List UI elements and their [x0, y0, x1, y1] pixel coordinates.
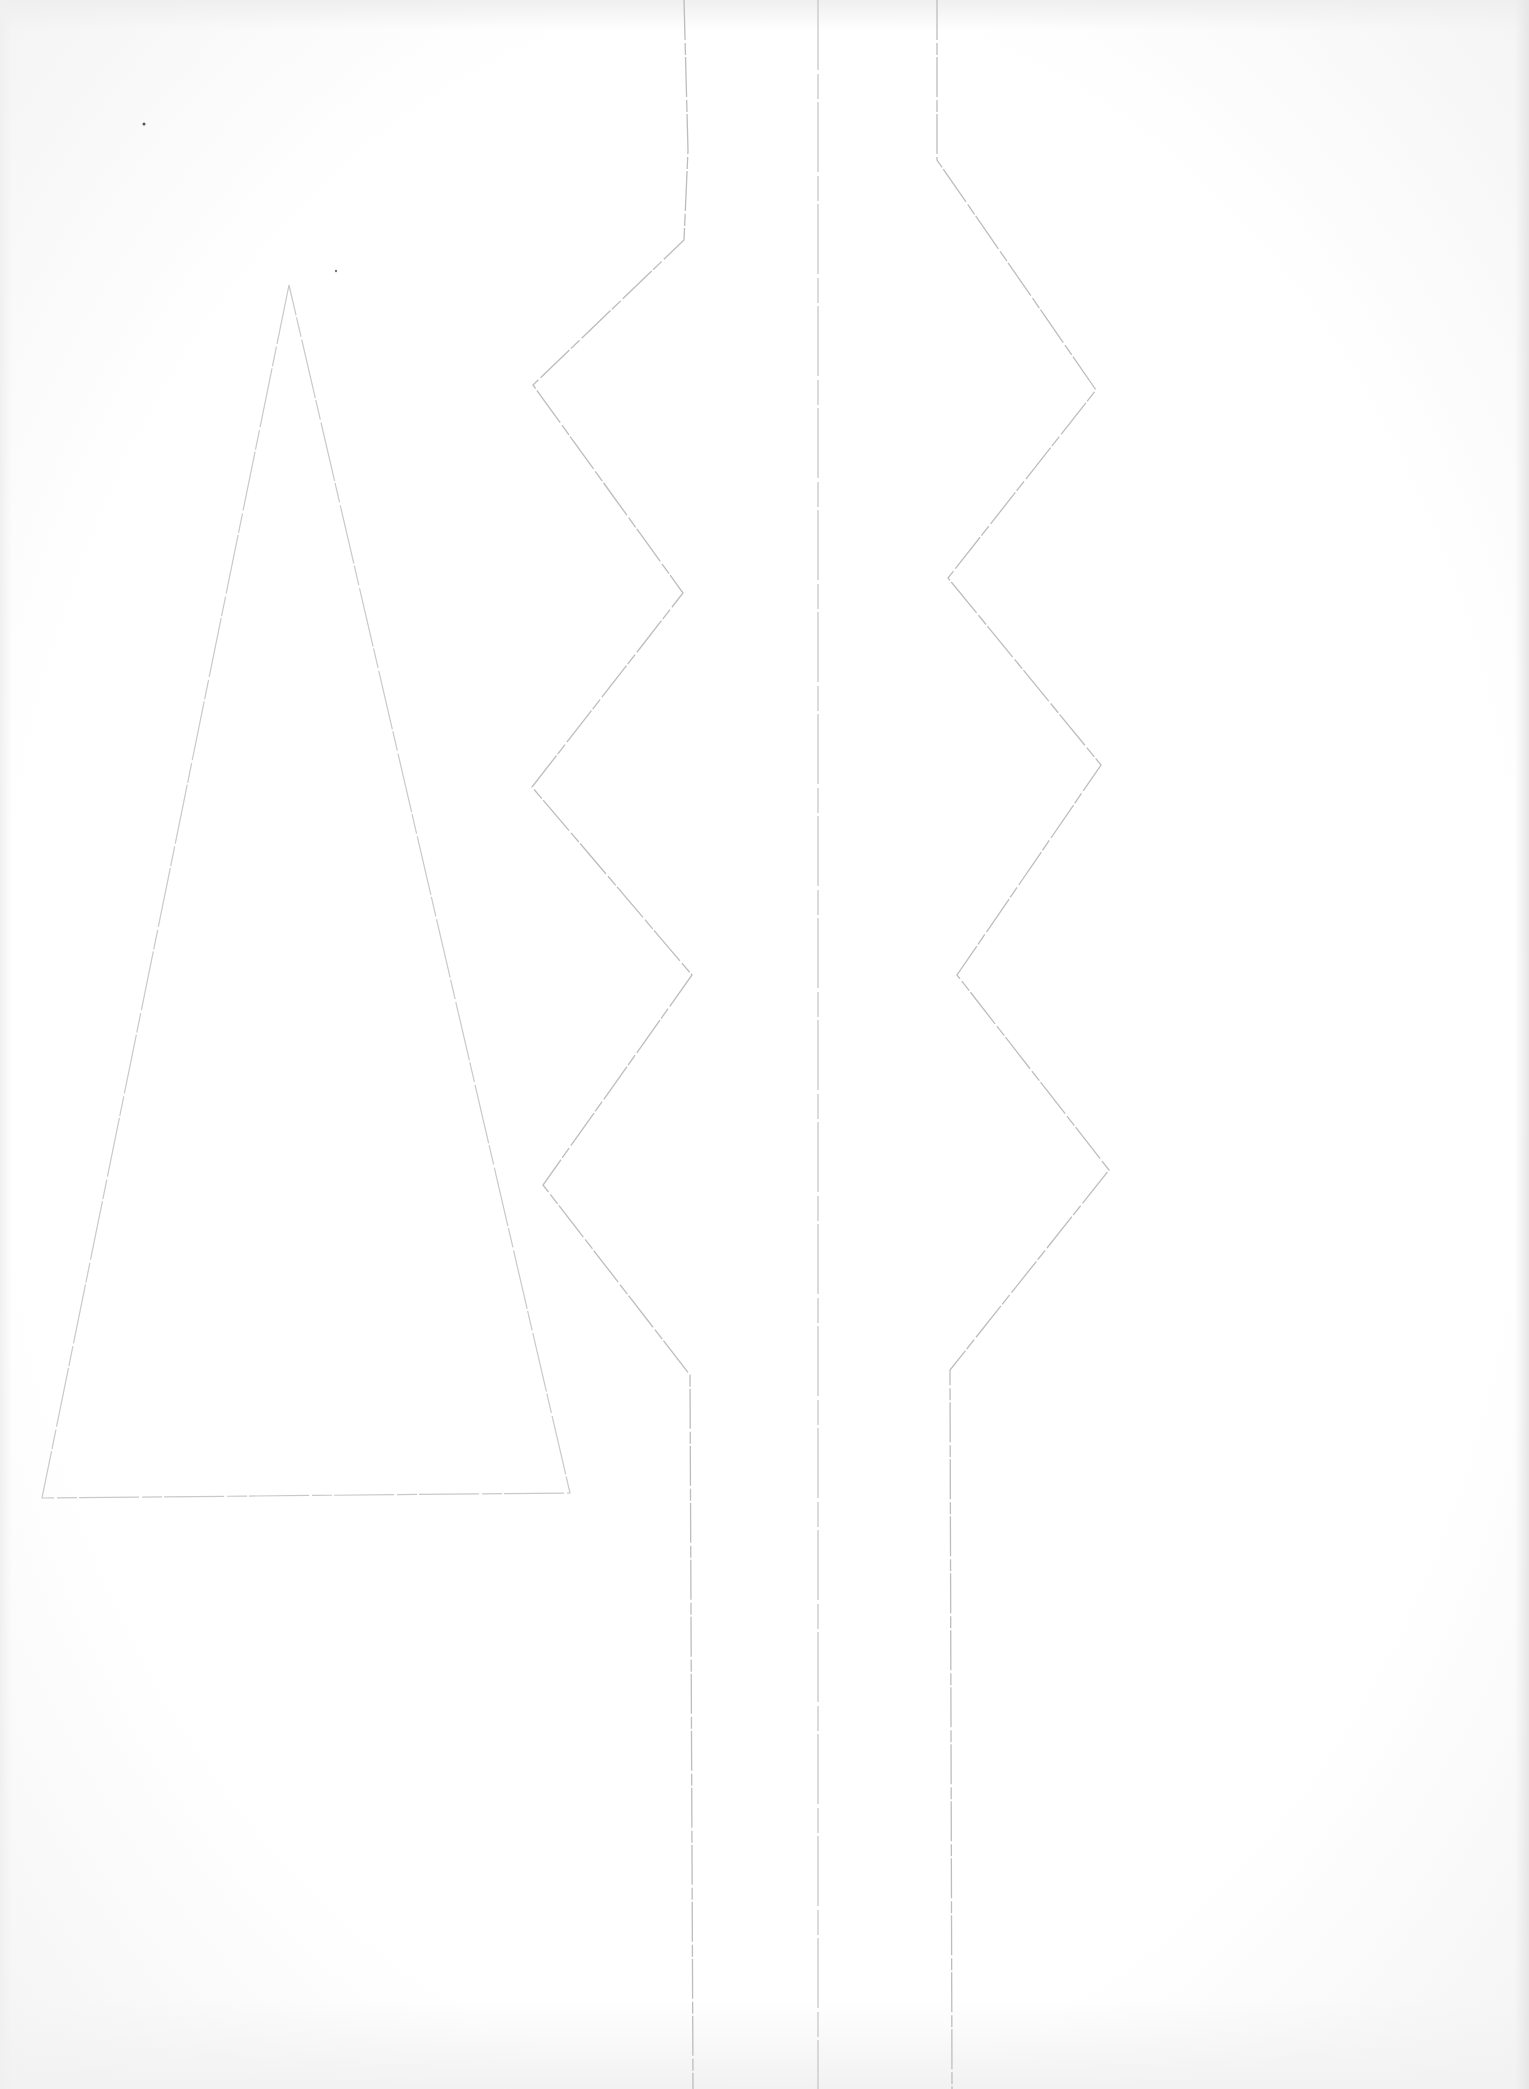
right-zigzag-cut-line	[937, 0, 1109, 2089]
left-zigzag-cut-line	[532, 0, 693, 2089]
template-drawing	[0, 0, 1529, 2089]
paper-sheet	[0, 0, 1529, 2089]
triangle-outline	[42, 285, 570, 1498]
speck-dot	[335, 270, 337, 272]
speck-dot	[143, 123, 146, 126]
